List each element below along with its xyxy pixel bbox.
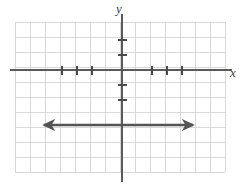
coordinate-plane-figure: y x: [0, 0, 242, 187]
graph-canvas: [0, 0, 242, 187]
grid-lines: [15, 22, 225, 172]
x-axis-label: x: [230, 66, 236, 79]
y-axis-label: y: [116, 2, 122, 15]
